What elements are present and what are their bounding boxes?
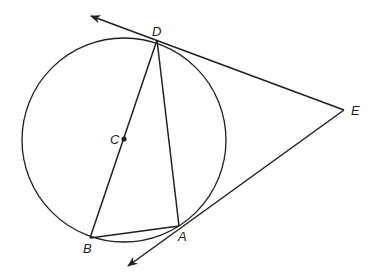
label-c: C	[110, 132, 120, 147]
label-d: D	[152, 24, 161, 39]
label-b: B	[83, 241, 92, 256]
center-point-c	[121, 136, 126, 141]
geometry-diagram: D C B A E	[0, 0, 373, 277]
label-e: E	[351, 103, 360, 118]
tangent-ray-ed	[91, 16, 344, 110]
segment-ba	[90, 226, 179, 238]
label-a: A	[177, 229, 187, 244]
segment-da	[157, 40, 179, 226]
tangent-ray-ea	[128, 110, 344, 266]
